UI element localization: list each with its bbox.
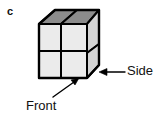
figure-panel: c Front Sid bbox=[0, 0, 158, 119]
front-face-cell-top-right bbox=[61, 24, 87, 51]
front-label: Front bbox=[26, 98, 56, 113]
front-face-cell-bottom-right bbox=[61, 51, 87, 78]
front-face-cell-bottom-left bbox=[39, 51, 61, 78]
front-face-cell-top-left bbox=[39, 24, 61, 51]
front-arrow bbox=[53, 78, 79, 97]
side-arrow bbox=[99, 69, 125, 76]
cube-front-face bbox=[39, 24, 87, 78]
cube-diagram-svg bbox=[0, 0, 158, 119]
side-label: Side bbox=[127, 63, 153, 78]
